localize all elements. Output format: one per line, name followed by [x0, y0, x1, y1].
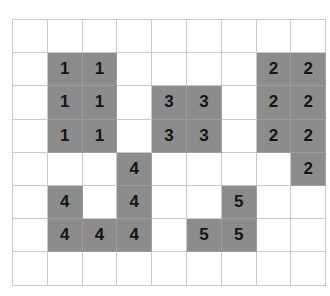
grid-cell-empty[interactable]	[117, 119, 152, 152]
cell-label: 4	[130, 219, 139, 251]
grid-cell-filled[interactable]: 2	[291, 152, 326, 185]
grid-cell-empty[interactable]	[291, 20, 326, 53]
grid-cell-empty[interactable]	[13, 86, 48, 119]
grid-cell-empty[interactable]	[291, 252, 326, 285]
grid-cell-empty[interactable]	[256, 252, 291, 285]
grid-cell-empty[interactable]	[82, 252, 117, 285]
grid-cell-empty[interactable]	[13, 53, 48, 86]
grid-cell-empty[interactable]	[82, 20, 117, 53]
grid-cell-empty[interactable]	[13, 219, 48, 252]
grid-cell-empty[interactable]	[256, 219, 291, 252]
grid-cell-empty[interactable]	[13, 20, 48, 53]
grid-cell-filled[interactable]: 1	[47, 119, 82, 152]
grid-cell-filled[interactable]: 4	[47, 185, 82, 218]
cell-label: 3	[164, 86, 173, 118]
grid-cell-empty[interactable]	[152, 152, 187, 185]
grid-cell-filled[interactable]: 5	[186, 219, 221, 252]
grid-cell-filled[interactable]: 4	[47, 219, 82, 252]
grid-cell-filled[interactable]: 2	[291, 53, 326, 86]
cell-label: 4	[60, 219, 69, 251]
grid-cell-filled[interactable]: 4	[117, 185, 152, 218]
cell-label: 1	[60, 120, 69, 152]
grid-cell-empty[interactable]	[221, 20, 256, 53]
grid-cell-filled[interactable]: 5	[221, 219, 256, 252]
grid-cell-filled[interactable]: 1	[47, 86, 82, 119]
grid-cell-empty[interactable]	[117, 252, 152, 285]
cell-label: 1	[60, 53, 69, 85]
grid-cell-empty[interactable]	[221, 252, 256, 285]
grid-cell-empty[interactable]	[256, 152, 291, 185]
grid-cell-empty[interactable]	[152, 20, 187, 53]
grid-cell-empty[interactable]	[291, 185, 326, 218]
cell-label: 4	[95, 219, 104, 251]
grid-cell-filled[interactable]: 2	[291, 119, 326, 152]
cell-label: 1	[60, 86, 69, 118]
grid-cell-empty[interactable]	[186, 53, 221, 86]
cell-label: 1	[95, 53, 104, 85]
cell-label: 4	[130, 153, 139, 185]
grid-cell-filled[interactable]: 1	[82, 86, 117, 119]
grid-cell-empty[interactable]	[152, 53, 187, 86]
grid-cell-filled[interactable]: 4	[117, 152, 152, 185]
grid-cell-empty[interactable]	[82, 185, 117, 218]
cell-label: 4	[130, 186, 139, 218]
cell-label: 2	[269, 86, 278, 118]
grid-cell-filled[interactable]: 2	[256, 119, 291, 152]
cell-label: 3	[164, 120, 173, 152]
cell-label: 3	[199, 86, 208, 118]
grid-cell-empty[interactable]	[47, 252, 82, 285]
grid-row: 113322	[13, 86, 326, 119]
grid-cell-empty[interactable]	[117, 20, 152, 53]
grid-table: 11221133221133224244544455	[12, 19, 326, 286]
grid-cell-filled[interactable]: 4	[117, 219, 152, 252]
grid-cell-filled[interactable]: 1	[47, 53, 82, 86]
grid-cell-filled[interactable]: 1	[82, 53, 117, 86]
cell-label: 5	[199, 219, 208, 251]
grid-cell-filled[interactable]: 3	[152, 119, 187, 152]
grid-cell-empty[interactable]	[117, 86, 152, 119]
grid-cell-filled[interactable]: 3	[186, 86, 221, 119]
grid-cell-filled[interactable]: 4	[82, 219, 117, 252]
grid-cell-empty[interactable]	[13, 119, 48, 152]
grid-row: 1122	[13, 53, 326, 86]
grid-cell-empty[interactable]	[13, 252, 48, 285]
grid-row: 113322	[13, 119, 326, 152]
grid-cell-empty[interactable]	[186, 185, 221, 218]
grid-cell-empty[interactable]	[291, 219, 326, 252]
grid-cell-empty[interactable]	[256, 20, 291, 53]
grid-cell-empty[interactable]	[221, 119, 256, 152]
grid-cell-empty[interactable]	[186, 152, 221, 185]
grid-cell-filled[interactable]: 3	[186, 119, 221, 152]
grid-cell-filled[interactable]: 3	[152, 86, 187, 119]
grid-cell-empty[interactable]	[152, 252, 187, 285]
grid-cell-empty[interactable]	[13, 185, 48, 218]
grid-cell-empty[interactable]	[13, 152, 48, 185]
grid-cell-empty[interactable]	[256, 185, 291, 218]
cell-label: 2	[304, 153, 313, 185]
grid-cell-empty[interactable]	[221, 53, 256, 86]
grid-cell-empty[interactable]	[47, 152, 82, 185]
cell-label: 5	[234, 186, 243, 218]
cell-label: 2	[269, 53, 278, 85]
grid-cell-empty[interactable]	[117, 53, 152, 86]
grid-cell-empty[interactable]	[152, 219, 187, 252]
grid-cell-empty[interactable]	[186, 252, 221, 285]
grid-cell-empty[interactable]	[82, 152, 117, 185]
cell-label: 5	[234, 219, 243, 251]
grid-cell-empty[interactable]	[186, 20, 221, 53]
grid-cell-filled[interactable]: 2	[291, 86, 326, 119]
grid-row: 42	[13, 152, 326, 185]
cell-label: 2	[304, 53, 313, 85]
cell-label: 3	[199, 120, 208, 152]
grid-cell-filled[interactable]: 1	[82, 119, 117, 152]
grid-cell-empty[interactable]	[221, 86, 256, 119]
grid-cell-empty[interactable]	[221, 152, 256, 185]
cell-label: 2	[304, 120, 313, 152]
cell-label: 2	[269, 120, 278, 152]
grid-cell-filled[interactable]: 2	[256, 53, 291, 86]
grid-row	[13, 252, 326, 285]
grid-cell-filled[interactable]: 5	[221, 185, 256, 218]
grid-cell-empty[interactable]	[152, 185, 187, 218]
grid-cell-filled[interactable]: 2	[256, 86, 291, 119]
grid-cell-empty[interactable]	[47, 20, 82, 53]
